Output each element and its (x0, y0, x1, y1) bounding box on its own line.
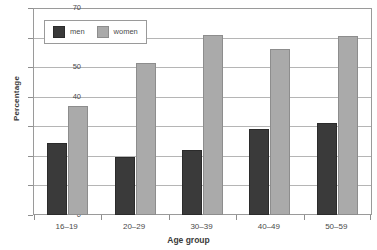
y-axis-tick (28, 215, 33, 216)
legend-label-women: women (114, 28, 138, 36)
legend: men women (44, 20, 147, 44)
legend-item-men[interactable]: men (53, 26, 85, 38)
bar-men-20-29 (115, 157, 135, 215)
x-axis-tick (370, 215, 371, 220)
x-axis-tick (101, 215, 102, 220)
bar-men-40-49 (249, 129, 269, 215)
legend-swatch-women-icon (97, 26, 109, 38)
y-axis-tick (28, 156, 33, 157)
y-axis-tick (28, 97, 33, 98)
y-axis-title: Percentage (12, 59, 21, 139)
bar-women-40-49 (270, 49, 290, 215)
y-axis-tick (28, 185, 33, 186)
x-axis-tick (304, 215, 305, 220)
x-axis-label: 50–59 (301, 223, 371, 231)
y-axis-tick (28, 126, 33, 127)
x-axis-label: 30–39 (167, 223, 237, 231)
bar-chart: Percentage 010203040506070 16–1920–2930–… (0, 0, 377, 250)
y-axis-tick (28, 67, 33, 68)
bar-men-50-59 (317, 123, 337, 215)
legend-label-men: men (70, 28, 85, 36)
y-axis-tick (28, 8, 33, 9)
legend-item-women[interactable]: women (97, 26, 138, 38)
bar-women-50-59 (338, 36, 358, 215)
x-axis-tick (34, 215, 35, 220)
x-axis-label: 16–19 (32, 223, 102, 231)
bar-men-30-39 (182, 150, 202, 215)
bar-women-20-29 (136, 63, 156, 215)
bar-men-16-19 (47, 143, 67, 215)
x-axis-label: 40–49 (234, 223, 304, 231)
x-axis-label: 20–29 (99, 223, 169, 231)
bar-women-30-39 (203, 35, 223, 215)
x-axis-title: Age group (0, 235, 377, 245)
legend-swatch-men-icon (53, 26, 65, 38)
x-axis-tick (236, 215, 237, 220)
bar-women-16-19 (68, 106, 88, 215)
y-axis-tick (28, 38, 33, 39)
x-axis-tick (169, 215, 170, 220)
